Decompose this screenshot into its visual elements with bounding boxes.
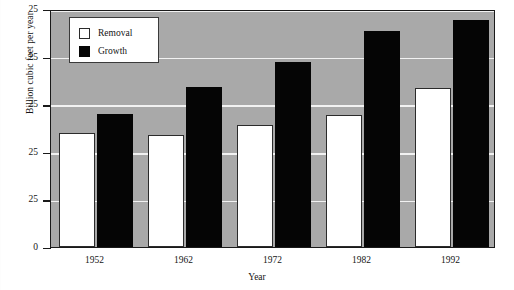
bar-growth-1952 (97, 114, 133, 247)
y-axis-tick-label: 25 (0, 99, 38, 109)
x-axis-tick-label: 1952 (55, 255, 135, 265)
legend-item-removal: Removal (79, 24, 158, 42)
bar-removal-1962 (148, 135, 184, 247)
x-axis-tick-label: 1982 (322, 255, 402, 265)
x-axis-tick-label: 1962 (144, 255, 224, 265)
white-square-swatch (79, 28, 90, 39)
plot-area: Removal Growth (50, 10, 495, 248)
bar-growth-1982 (364, 31, 400, 247)
bar-growth-1962 (186, 87, 222, 247)
bar-growth-1992 (453, 20, 489, 247)
x-axis-title: Year (0, 272, 514, 282)
y-axis-tick-label: 25 (0, 147, 38, 157)
bar-removal-1952 (59, 133, 95, 247)
legend-item-growth: Growth (79, 42, 158, 60)
legend-label-removal: Removal (98, 28, 132, 38)
y-axis-tick-label: 0 (0, 242, 38, 252)
legend-label-growth: Growth (98, 46, 127, 56)
legend: Removal Growth (69, 17, 159, 63)
y-axis-tick-label: 25 (0, 194, 38, 204)
black-square-swatch (79, 46, 90, 57)
bar-removal-1982 (326, 115, 362, 247)
y-axis-title: Billion cubic feet per year (25, 0, 35, 153)
y-axis-tick-label: 25 (0, 4, 38, 14)
gridline (51, 10, 494, 12)
x-axis-tick-label: 1972 (233, 255, 313, 265)
bar-growth-1972 (275, 62, 311, 247)
y-axis-tick (43, 248, 51, 249)
bar-removal-1992 (415, 88, 451, 247)
x-axis-tick-label: 1992 (411, 255, 491, 265)
y-axis-tick-label: 25 (0, 52, 38, 62)
bar-removal-1972 (237, 125, 273, 247)
bar-chart-figure: Billion cubic feet per year 02525252525 … (0, 0, 514, 290)
